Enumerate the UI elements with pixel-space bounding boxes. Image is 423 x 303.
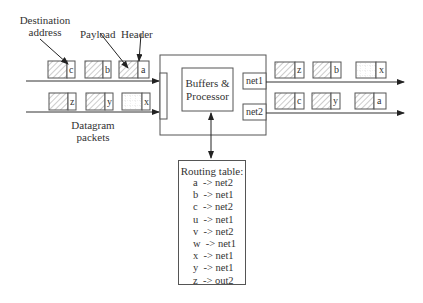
routing-entry: w -> net1 <box>179 238 245 250</box>
processor-label-line2: Processor <box>182 90 233 103</box>
payload-label: Payload <box>80 28 115 40</box>
destination-pointer <box>40 39 68 64</box>
input-row-1 <box>26 61 159 81</box>
destination-label-line2: address <box>15 26 75 38</box>
out-packet-address-c: c <box>297 95 301 107</box>
packet-address-c: c <box>69 64 73 76</box>
processor-label-line1: Buffers & <box>182 77 233 90</box>
datagram-label-line1: Datagram <box>68 119 118 131</box>
out-packet-address-b: b <box>334 64 339 76</box>
routing-entry: c -> net2 <box>179 201 245 213</box>
out-packet-address-a: a <box>377 95 381 107</box>
packet-address-x: x <box>144 96 149 108</box>
packet-address-b: b <box>105 64 110 76</box>
port-net2-label: net2 <box>243 106 266 118</box>
routing-entry: v -> net2 <box>179 226 245 238</box>
datagram-label-line2: packets <box>68 131 118 143</box>
port-net1-label: net1 <box>243 75 266 87</box>
out-packet-address-x: x <box>379 64 384 76</box>
out-packet-address-y: y <box>333 95 338 107</box>
routing-entry: a -> net2 <box>179 177 245 189</box>
datagram-packets-label: Datagram packets <box>68 119 118 143</box>
routing-table: Routing table: a -> net2 b -> net1 c -> … <box>178 160 246 285</box>
input-port-bar <box>160 73 167 119</box>
routing-entry: y -> net1 <box>179 262 245 274</box>
packet-address-a: a <box>141 64 145 76</box>
destination-label-line1: Destination <box>15 14 75 26</box>
routing-entry: x -> net1 <box>179 250 245 262</box>
input-row-2 <box>26 93 159 112</box>
routing-entry: b -> net1 <box>179 189 245 201</box>
processor-label: Buffers & Processor <box>182 77 233 103</box>
routing-entry: u -> net1 <box>179 214 245 226</box>
header-label: Header <box>121 28 153 40</box>
routing-table-title: Routing table: <box>179 165 245 177</box>
routing-entry: z -> out2 <box>179 275 245 287</box>
destination-address-label: Destination address <box>15 14 75 38</box>
packet-address-y: y <box>107 96 112 108</box>
out-packet-address-z: z <box>297 64 301 76</box>
packet-address-z: z <box>70 96 74 108</box>
